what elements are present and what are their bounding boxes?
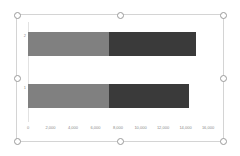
selection-frame[interactable] [16, 14, 224, 142]
resize-handle-top-left[interactable] [14, 12, 21, 19]
resize-handle-bottom-left[interactable] [14, 138, 21, 145]
resize-handle-top-right[interactable] [220, 12, 227, 19]
resize-handle-bottom-center[interactable] [117, 138, 124, 145]
resize-handle-top-center[interactable] [117, 12, 124, 19]
resize-handle-bottom-right[interactable] [220, 138, 227, 145]
resize-handle-middle-right[interactable] [220, 75, 227, 82]
resize-handle-middle-left[interactable] [14, 75, 21, 82]
